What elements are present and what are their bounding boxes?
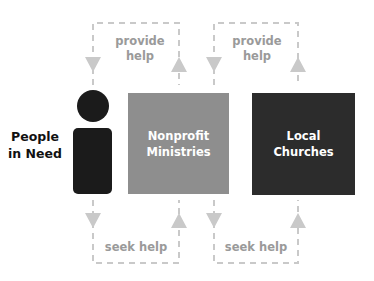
local-churches-box: Local Churches bbox=[252, 93, 355, 195]
arrow-down-icon bbox=[206, 213, 222, 228]
provide-help-label-left: provide help bbox=[108, 34, 172, 64]
label-line: help bbox=[225, 49, 289, 64]
arrow-up-icon bbox=[290, 57, 306, 72]
people-in-need-label: People in Need bbox=[2, 128, 68, 162]
seek-help-label-right: seek help bbox=[220, 240, 292, 255]
label-line: provide bbox=[225, 34, 289, 49]
label-line: Churches bbox=[273, 144, 333, 160]
label-line: in Need bbox=[2, 145, 68, 162]
provide-help-label-right: provide help bbox=[225, 34, 289, 64]
seek-help-label-left: seek help bbox=[100, 240, 172, 255]
label-line: People bbox=[2, 128, 68, 145]
label-line: Nonprofit bbox=[146, 128, 210, 144]
person-icon bbox=[73, 90, 112, 194]
arrow-up-icon bbox=[171, 213, 187, 228]
arrow-up-icon bbox=[171, 57, 187, 72]
nonprofit-ministries-box: Nonprofit Ministries bbox=[128, 93, 229, 194]
arrow-down-icon bbox=[206, 57, 222, 72]
label-line: Ministries bbox=[146, 144, 210, 160]
label-line: help bbox=[108, 49, 172, 64]
arrow-down-icon bbox=[85, 213, 101, 228]
arrow-down-icon bbox=[85, 57, 101, 72]
arrow-up-icon bbox=[290, 213, 306, 228]
label-line: provide bbox=[108, 34, 172, 49]
label-line: Local bbox=[273, 128, 333, 144]
